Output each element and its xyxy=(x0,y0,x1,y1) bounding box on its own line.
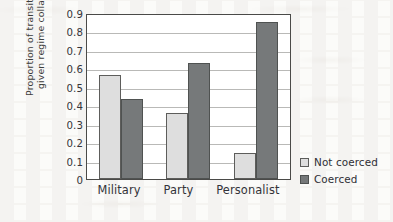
y-tick-label: 0.4 xyxy=(66,101,83,112)
x-tick-label-military: Military xyxy=(97,183,140,197)
bar-group xyxy=(99,15,143,179)
legend-label: Coerced xyxy=(314,173,357,185)
plot-area xyxy=(86,14,291,180)
y-tick-label: 0.2 xyxy=(66,138,83,149)
bar-personalist-not-coerced xyxy=(234,153,256,179)
y-tick-label: 0.3 xyxy=(66,119,83,130)
y-axis-title-line-2: given regime collapse xyxy=(36,0,47,89)
x-tick-label-personalist: Personalist xyxy=(216,183,279,197)
x-axis-tick-labels: MilitaryPartyPersonalist xyxy=(86,183,291,197)
y-axis-title: Proportion of transitions, given regime … xyxy=(18,0,54,120)
chart-page: Proportion of transitions, given regime … xyxy=(0,0,393,222)
chart-legend: Not coercedCoerced xyxy=(300,156,378,185)
y-tick-label: 0.7 xyxy=(66,45,83,56)
y-tick-label: 0.8 xyxy=(66,27,83,38)
bar-military-not-coerced xyxy=(99,75,121,179)
y-tick-label: 0.6 xyxy=(66,64,83,75)
x-tick-label-party: Party xyxy=(164,183,194,197)
legend-swatch-icon xyxy=(300,175,309,184)
legend-entry-not-coerced: Not coerced xyxy=(300,156,378,168)
bar-personalist-coerced xyxy=(256,22,278,179)
y-tick-label: 0.5 xyxy=(66,82,83,93)
y-tick-label: 0.9 xyxy=(66,9,83,20)
legend-swatch-icon xyxy=(300,158,309,167)
bar-military-coerced xyxy=(121,99,143,179)
bar-groups xyxy=(87,15,290,179)
bar-party-not-coerced xyxy=(166,113,188,179)
y-axis-tick-labels: 0.90.80.70.60.50.40.30.20.10 xyxy=(56,14,83,180)
bar-party-coerced xyxy=(188,63,210,179)
bar-group xyxy=(234,15,278,179)
bar-group xyxy=(166,15,210,179)
y-tick-label: 0 xyxy=(76,175,83,186)
y-tick-label: 0.1 xyxy=(66,156,83,167)
legend-label: Not coerced xyxy=(314,156,378,168)
legend-entry-coerced: Coerced xyxy=(300,173,378,185)
